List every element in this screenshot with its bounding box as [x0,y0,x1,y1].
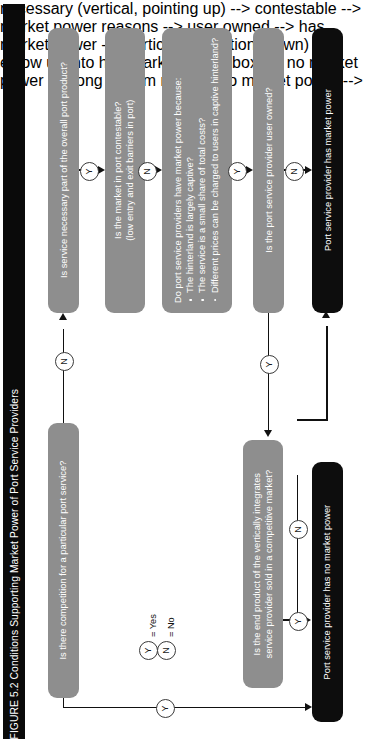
edge-marker-vertical-no: N [289,520,308,539]
edge-marker-competition-yes: Y [156,699,175,718]
edge-necessary-yes-arrow [98,166,105,174]
figure-title: FIGURE 5.2 Conditions Supporting Market … [9,4,20,739]
node-competition-label: Is there competition for a particular po… [57,461,69,660]
node-vertical-integration-label: Is the end product of the vertically int… [251,470,275,659]
node-service-necessary[interactable]: Is service necessary part of the overall… [48,28,79,313]
node-market-contestable-label: Is the market in port contestable? (low … [113,100,137,241]
node-vertical-integration[interactable]: Is the end product of the vertically int… [243,440,283,688]
edge-marketpower-yes-arrow [246,166,253,174]
node-no-market-power-label: Port service provider has no market powe… [321,505,333,680]
node-user-owned[interactable]: Is the port service provider user owned? [253,28,284,313]
edge-vertical-no-arrow [322,311,330,318]
edge-userowned-no-arrow [305,166,312,174]
edge-userowned-yes-arrow [264,430,272,437]
legend-no-text: = No [166,617,176,637]
node-market-power-reasons-label: Do port service providers have market po… [173,38,222,303]
edge-vertical-no-h [297,419,328,421]
node-market-power-reasons[interactable]: Do port service providers have market po… [162,28,232,313]
mp-bullet-2: The service is a small share of total co… [197,38,209,303]
node-no-market-power[interactable]: Port service provider has no market powe… [312,462,343,722]
edge-competition-no-arrow [59,313,67,320]
edge-marker-necessary-yes: Y [80,162,99,181]
edge-marker-contestable-no: N [138,162,157,181]
mp-bullet-1: The hinterland is largely captive? [185,38,197,303]
node-competition[interactable]: Is there competition for a particular po… [48,423,79,698]
edge-competition-yes-h [63,707,308,709]
legend-no-symbol: N [157,641,176,660]
mp-head: Do port service providers have market po… [173,38,185,303]
legend-yes-symbol: Y [139,641,158,660]
edge-competition-no-line [63,329,65,423]
node-vertical-line1: Is the end product of the vertically int… [251,470,263,659]
figure-canvas: FIGURE 5.2 Conditions Supporting Market … [0,0,368,743]
edge-marker-vertical-yes: Y [289,612,308,631]
edge-marker-userowned-no: N [285,162,304,181]
edge-vertical-no-v1 [297,475,299,620]
node-service-necessary-label: Is service necessary part of the overall… [57,62,69,278]
edge-competition-yes-arrow [305,703,312,711]
node-market-contestable-line1: Is the market in port contestable? [113,100,125,241]
figure-title-bar: FIGURE 5.2 Conditions Supporting Market … [3,4,25,739]
node-market-contestable-line2: (low entry and exit barriers in port) [125,100,137,241]
node-has-market-power[interactable]: Port service provider has market power [312,28,343,313]
node-vertical-line2: service provider sold in a competitive m… [263,470,275,659]
node-has-market-power-label: Port service provider has market power [321,90,333,252]
edge-marker-competition-no: N [55,352,74,371]
mp-bullet-3: Different prices can be charged to users… [209,38,221,303]
node-user-owned-label: Is the port service provider user owned? [262,88,274,253]
edge-marker-userowned-yes: Y [260,355,279,374]
edge-marker-marketpower-yes: Y [228,162,247,181]
edge-vertical-no-v2 [326,326,328,420]
legend-yes-text: = Yes [148,614,158,637]
